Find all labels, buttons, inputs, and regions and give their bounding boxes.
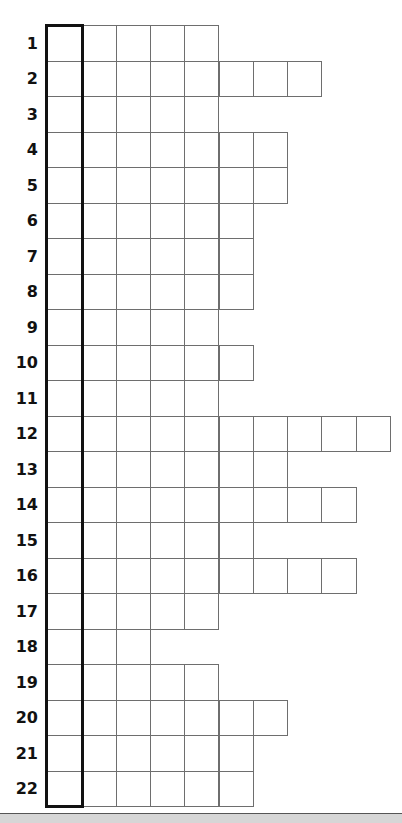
letter-cell[interactable] <box>47 274 82 311</box>
letter-cell[interactable] <box>253 416 288 453</box>
letter-cell[interactable] <box>81 664 116 701</box>
letter-cell[interactable] <box>150 593 185 630</box>
letter-cell[interactable] <box>81 274 116 311</box>
letter-cell[interactable] <box>219 735 254 772</box>
letter-cell[interactable] <box>287 61 322 98</box>
letter-cell[interactable] <box>150 61 185 98</box>
letter-cell[interactable] <box>81 25 116 62</box>
letter-cell[interactable] <box>184 25 219 62</box>
letter-cell[interactable] <box>47 771 82 808</box>
letter-cell[interactable] <box>150 132 185 169</box>
letter-cell[interactable] <box>150 522 185 559</box>
letter-cell[interactable] <box>356 416 391 453</box>
letter-cell[interactable] <box>81 629 116 666</box>
letter-cell[interactable] <box>184 167 219 204</box>
letter-cell[interactable] <box>150 558 185 595</box>
letter-cell[interactable] <box>47 558 82 595</box>
letter-cell[interactable] <box>47 238 82 275</box>
letter-cell[interactable] <box>150 487 185 524</box>
letter-cell[interactable] <box>116 96 151 133</box>
letter-cell[interactable] <box>47 416 82 453</box>
letter-cell[interactable] <box>47 735 82 772</box>
letter-cell[interactable] <box>184 593 219 630</box>
letter-cell[interactable] <box>116 203 151 240</box>
letter-cell[interactable] <box>150 700 185 737</box>
letter-cell[interactable] <box>184 203 219 240</box>
letter-cell[interactable] <box>219 558 254 595</box>
letter-cell[interactable] <box>150 664 185 701</box>
letter-cell[interactable] <box>116 25 151 62</box>
letter-cell[interactable] <box>253 558 288 595</box>
letter-cell[interactable] <box>81 487 116 524</box>
letter-cell[interactable] <box>116 345 151 382</box>
letter-cell[interactable] <box>253 132 288 169</box>
letter-cell[interactable] <box>116 416 151 453</box>
letter-cell[interactable] <box>81 96 116 133</box>
letter-cell[interactable] <box>47 61 82 98</box>
letter-cell[interactable] <box>219 274 254 311</box>
letter-cell[interactable] <box>150 238 185 275</box>
letter-cell[interactable] <box>219 167 254 204</box>
letter-cell[interactable] <box>150 274 185 311</box>
letter-cell[interactable] <box>150 203 185 240</box>
letter-cell[interactable] <box>116 664 151 701</box>
letter-cell[interactable] <box>47 96 82 133</box>
letter-cell[interactable] <box>81 345 116 382</box>
letter-cell[interactable] <box>219 416 254 453</box>
letter-cell[interactable] <box>81 416 116 453</box>
letter-cell[interactable] <box>81 380 116 417</box>
letter-cell[interactable] <box>253 487 288 524</box>
letter-cell[interactable] <box>321 487 356 524</box>
letter-cell[interactable] <box>81 771 116 808</box>
letter-cell[interactable] <box>184 451 219 488</box>
letter-cell[interactable] <box>253 61 288 98</box>
letter-cell[interactable] <box>184 96 219 133</box>
letter-cell[interactable] <box>47 25 82 62</box>
letter-cell[interactable] <box>184 522 219 559</box>
letter-cell[interactable] <box>47 345 82 382</box>
letter-cell[interactable] <box>47 593 82 630</box>
letter-cell[interactable] <box>81 593 116 630</box>
letter-cell[interactable] <box>150 25 185 62</box>
letter-cell[interactable] <box>116 132 151 169</box>
letter-cell[interactable] <box>47 380 82 417</box>
letter-cell[interactable] <box>116 309 151 346</box>
letter-cell[interactable] <box>116 593 151 630</box>
letter-cell[interactable] <box>184 664 219 701</box>
letter-cell[interactable] <box>219 771 254 808</box>
letter-cell[interactable] <box>219 203 254 240</box>
letter-cell[interactable] <box>116 238 151 275</box>
letter-cell[interactable] <box>287 558 322 595</box>
letter-cell[interactable] <box>219 345 254 382</box>
letter-cell[interactable] <box>184 309 219 346</box>
letter-cell[interactable] <box>184 487 219 524</box>
letter-cell[interactable] <box>184 558 219 595</box>
letter-cell[interactable] <box>184 416 219 453</box>
letter-cell[interactable] <box>116 274 151 311</box>
letter-cell[interactable] <box>116 629 151 666</box>
letter-cell[interactable] <box>184 238 219 275</box>
letter-cell[interactable] <box>81 522 116 559</box>
letter-cell[interactable] <box>184 735 219 772</box>
letter-cell[interactable] <box>116 522 151 559</box>
letter-cell[interactable] <box>287 487 322 524</box>
letter-cell[interactable] <box>81 309 116 346</box>
letter-cell[interactable] <box>150 416 185 453</box>
letter-cell[interactable] <box>116 167 151 204</box>
letter-cell[interactable] <box>150 345 185 382</box>
letter-cell[interactable] <box>219 61 254 98</box>
letter-cell[interactable] <box>47 700 82 737</box>
letter-cell[interactable] <box>116 451 151 488</box>
letter-cell[interactable] <box>321 416 356 453</box>
letter-cell[interactable] <box>81 167 116 204</box>
letter-cell[interactable] <box>219 451 254 488</box>
letter-cell[interactable] <box>116 380 151 417</box>
letter-cell[interactable] <box>253 451 288 488</box>
letter-cell[interactable] <box>47 487 82 524</box>
letter-cell[interactable] <box>150 309 185 346</box>
letter-cell[interactable] <box>150 735 185 772</box>
letter-cell[interactable] <box>81 451 116 488</box>
letter-cell[interactable] <box>184 345 219 382</box>
letter-cell[interactable] <box>47 451 82 488</box>
letter-cell[interactable] <box>219 700 254 737</box>
